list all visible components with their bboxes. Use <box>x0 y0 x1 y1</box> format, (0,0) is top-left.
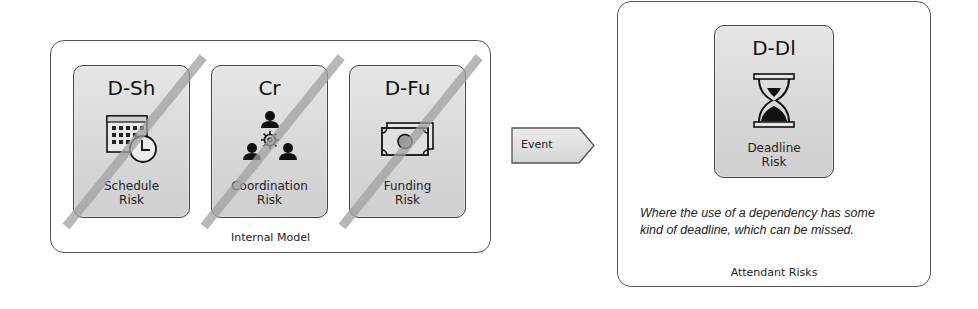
hourglass-icon <box>753 73 795 128</box>
event-arrow: Event <box>511 127 595 164</box>
risk-card-deadline: D-Dl Deadline Risk <box>714 25 834 178</box>
attendant-risks-label: Attendant Risks <box>618 266 930 279</box>
event-label: Event <box>521 138 553 151</box>
risk-description: Where the use of a dependency has some k… <box>640 205 900 239</box>
risk-code: D-Dl <box>715 36 833 60</box>
risk-name: Deadline Risk <box>715 141 833 169</box>
internal-model-label: Internal Model <box>51 231 490 244</box>
